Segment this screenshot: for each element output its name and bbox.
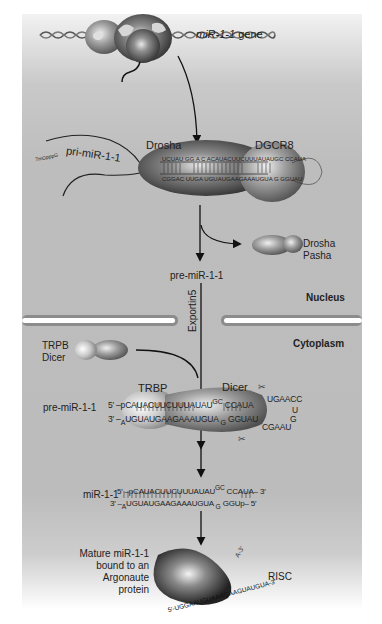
- released-drosha-label: Drosha: [303, 238, 335, 250]
- gene-name: miR-1-1: [196, 28, 235, 40]
- arrow-dicer-join: [136, 350, 198, 378]
- pre-mirna-top-strand: 5′ –pCAUACUUCUUUAUAUGC CCAUA: [108, 396, 254, 411]
- dgcr8-label: DGCR8: [255, 139, 294, 151]
- polymerase-complex: [85, 14, 172, 82]
- released-pasha-label: Pasha: [303, 250, 331, 262]
- dgcr8-protein: [239, 142, 305, 202]
- pre-mirna-bottom-strand: 3′ –AUGUAUGAAGAAAUGUA G GGUAU: [108, 413, 258, 429]
- duplex-top-strand: 5′ –pCAUACUUCUUUAUAUGC CCAUA– 3′: [117, 482, 265, 498]
- drosha-bottom-strand: CGGAC UUGA UGUAUGAAGAAAUGUA G GGUAU: [162, 176, 302, 182]
- risc-label: RISC: [268, 571, 292, 583]
- nucleus-label: Nucleus: [306, 292, 345, 304]
- arrow-release-drosha: [201, 225, 240, 244]
- released-drosha-pasha: [252, 235, 303, 255]
- svg-text:✂: ✂: [238, 434, 246, 444]
- free-trbp-dicer: [75, 340, 128, 360]
- arrow-transcription: [178, 56, 197, 142]
- dicer-label: Dicer: [222, 381, 248, 393]
- drosha-label: Drosha: [146, 139, 181, 151]
- mature-label-line3: Argonaute: [35, 572, 149, 584]
- loop-bottom: CGAAU: [262, 421, 291, 433]
- pri-mirna-3prime-tail: [63, 173, 140, 196]
- pre-mirna-cyto-label: pre-miR-1-1: [43, 402, 96, 414]
- duplex-bottom-strand: 3′ –AUGUAUGAAGAAAUGUA G GGUp– 5′: [110, 498, 256, 513]
- dicer-free-label: Dicer: [42, 352, 65, 364]
- gene-suffix: gene: [235, 28, 263, 40]
- mature-label-line2: bound to an: [35, 560, 149, 572]
- exportin5-label: Exportin5: [187, 290, 199, 332]
- mature-label-line4: protein: [35, 584, 149, 596]
- cytoplasm-label: Cytoplasm: [293, 338, 344, 350]
- pre-mirna-nuclear-label: pre-miR-1-1: [170, 270, 223, 282]
- mature-label-line1: Mature miR-1-1: [35, 548, 149, 560]
- svg-text:✂: ✂: [258, 382, 266, 392]
- trpb-label: TRPB: [42, 340, 69, 352]
- trbp-label: TRBP: [138, 382, 167, 394]
- drosha-top-strand: UCUAU GG A C ACAUACUUCUUUAUAUGC CCAUA: [162, 156, 306, 162]
- gene-label: miR-1-1 gene: [196, 28, 263, 40]
